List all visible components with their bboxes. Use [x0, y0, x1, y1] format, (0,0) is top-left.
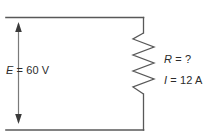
current-equals: =: [167, 74, 180, 86]
resistance-symbol: R: [164, 53, 172, 65]
source-voltage-label: E = 60 V: [6, 65, 49, 76]
source-equals: =: [13, 64, 26, 76]
resistance-label: R = ?: [164, 54, 191, 65]
voltage-arrow-up-head-icon: [15, 22, 22, 32]
voltage-arrow-down-head-icon: [15, 114, 22, 124]
resistance-value: ?: [185, 53, 191, 65]
circuit-diagram-canvas: E = 60 V R = ? I = 12 A: [0, 0, 221, 139]
source-value: 60 V: [26, 64, 49, 76]
resistance-equals: =: [172, 53, 185, 65]
current-label: I = 12 A: [164, 75, 202, 86]
current-value: 12 A: [180, 74, 202, 86]
resistor-zigzag-icon: [133, 33, 154, 94]
